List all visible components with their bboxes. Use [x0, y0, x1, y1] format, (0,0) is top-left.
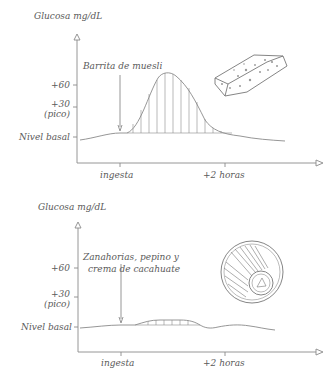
vegetable-plate-icon: [221, 241, 283, 303]
top-chart-axes: [73, 34, 323, 167]
top-x-tick-2h: +2 horas: [203, 171, 245, 180]
bottom-annotation-line1: Zanahorias, pepino y: [83, 253, 179, 262]
muesli-bar-icon: [215, 55, 287, 96]
top-tick-pico: (pico): [36, 110, 70, 119]
bottom-tick-plus30: +30: [40, 290, 70, 299]
top-annotation-arrow: [118, 75, 122, 131]
top-tick-basal: Nivel basal: [2, 133, 70, 142]
bottom-annotation-line2: crema de cacahuate: [88, 265, 180, 274]
bottom-y-axis-title: Glucosa mg/dL: [38, 203, 106, 212]
top-glucose-curve: [80, 73, 285, 141]
top-tick-plus30: +30: [40, 100, 70, 109]
bottom-x-tick-ingesta: ingesta: [101, 359, 134, 368]
top-tick-plus60: +60: [40, 81, 70, 90]
top-x-tick-ingesta: ingesta: [100, 171, 133, 180]
bottom-tick-pico: (pico): [36, 300, 70, 309]
bottom-tick-basal: Nivel basal: [4, 323, 72, 332]
bottom-x-tick-2h: +2 horas: [203, 359, 245, 368]
top-y-axis-title: Glucosa mg/dL: [34, 12, 102, 21]
bottom-chart-axes: [74, 222, 323, 356]
top-annotation-label: Barrita de muesli: [83, 62, 162, 71]
bottom-tick-plus60: +60: [40, 264, 70, 273]
